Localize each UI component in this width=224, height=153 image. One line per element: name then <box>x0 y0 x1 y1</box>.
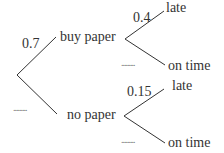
prob-buy-paper: 0.7 <box>22 37 40 51</box>
tree-lines <box>0 0 224 153</box>
prob-no-paper-late: 0.15 <box>127 85 152 99</box>
outcome-no-paper: no paper <box>67 108 116 122</box>
prob-buy-paper-late: 0.4 <box>133 11 151 25</box>
outcome-no-paper-late: late <box>172 79 192 93</box>
outcome-buy-paper: buy paper <box>60 30 116 44</box>
prob-no-paper-on-time-blank[interactable]: ......... <box>121 135 135 145</box>
prob-no-paper-blank[interactable]: ......... <box>13 103 27 113</box>
outcome-no-paper-on-time: on time <box>168 136 210 150</box>
outcome-buy-paper-late: late <box>166 1 186 15</box>
prob-buy-paper-on-time-blank[interactable]: ......... <box>121 58 135 68</box>
outcome-buy-paper-on-time: on time <box>168 59 210 73</box>
